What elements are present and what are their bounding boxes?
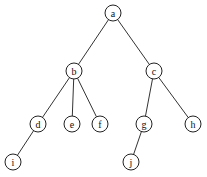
- node-label: j: [129, 157, 133, 168]
- node-i: i: [5, 154, 21, 170]
- node-f: f: [92, 116, 108, 132]
- node-a: a: [105, 5, 121, 21]
- node-label: e: [70, 119, 75, 130]
- edge-a-c: [118, 20, 150, 65]
- node-d: d: [30, 116, 46, 132]
- node-b: b: [66, 63, 82, 79]
- node-h: h: [185, 116, 201, 132]
- nodes: abcdefghij: [5, 5, 201, 170]
- edge-b-e: [72, 79, 73, 116]
- tree-diagram: abcdefghij: [0, 0, 207, 177]
- node-label: i: [12, 157, 15, 168]
- edge-b-f: [78, 78, 97, 117]
- node-g: g: [136, 116, 152, 132]
- edge-g-j: [134, 132, 142, 155]
- node-c: c: [146, 63, 162, 79]
- node-label: h: [191, 119, 196, 130]
- edge-c-g: [145, 79, 152, 116]
- node-e: e: [64, 116, 80, 132]
- edge-b-d: [42, 78, 69, 118]
- node-label: c: [152, 66, 157, 77]
- edge-c-h: [159, 77, 189, 117]
- node-label: a: [111, 8, 116, 19]
- node-j: j: [123, 154, 139, 170]
- node-label: g: [142, 119, 147, 130]
- edges: [17, 20, 188, 156]
- edge-d-i: [17, 131, 33, 156]
- node-label: d: [36, 119, 41, 130]
- node-label: b: [72, 66, 77, 77]
- edge-a-b: [78, 20, 108, 65]
